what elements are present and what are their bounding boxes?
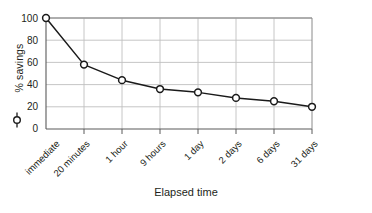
x-axis-title: Elapsed time [0,186,372,198]
forgetting-curve-chart: % savings 100 80 60 40 20 0 [0,0,372,213]
x-axis-tick-labels: immediate 20 minutes 1 hour 9 hours 1 da… [0,0,372,213]
